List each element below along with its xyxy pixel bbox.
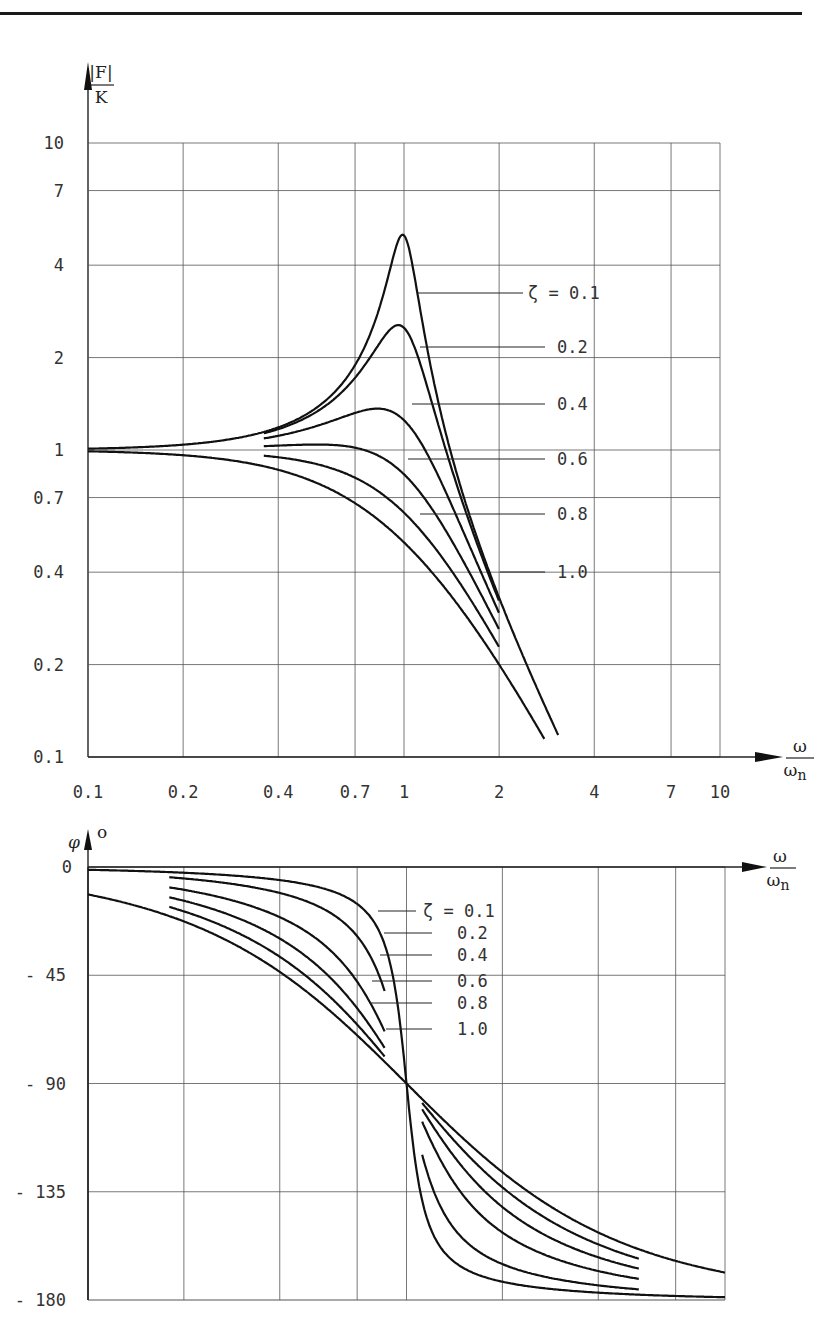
amp-y-tick-label: 7 [54,181,64,201]
amp-x-tick-label: 4 [589,782,599,802]
phase-legend-label: 0.8 [457,993,488,1013]
amp-y-tick-label: 4 [54,255,64,275]
amp-x-tick-label: 0.4 [263,782,294,802]
amp-x-tick-label: 0.2 [168,782,199,802]
amp-xlabel-denominator: ωn [784,760,807,783]
phase-legend-label: 0.6 [457,971,488,991]
amp-legend-label: ζ = 0.1 [528,283,600,303]
amplitude-grid [88,80,760,757]
phase-legend-label: 1.0 [457,1019,488,1039]
amplitude-legend: ζ = 0.10.20.40.60.81.0 [408,283,600,582]
amp-x-arrow-icon [755,752,783,762]
phase-y-tick-label: - 180 [15,1290,66,1310]
amp-y-tick-label: 10 [44,133,64,153]
phase-xlabel-denominator: ωn [767,870,790,893]
phase-ylabel-unit: o [97,822,107,842]
amp-curve-zeta-1 [88,451,544,739]
phase-legend-label: 0.2 [457,923,488,943]
phase-y-arrow-icon [84,829,92,850]
phase-y-tick-label: - 135 [15,1182,66,1202]
phase-x-arrow-icon [742,862,767,872]
amp-y-tick-label: 0.4 [33,562,64,582]
amp-curve-zeta-0.4 [264,409,499,613]
amplitude-tick-labels: 1074210.70.40.20.10.10.20.40.7124710 [33,133,730,802]
amp-legend-label: 0.8 [557,504,588,524]
amplitude-curves [88,235,558,739]
amp-x-tick-label: 0.7 [340,782,371,802]
amp-x-tick-label: 1 [399,782,409,802]
amp-y-tick-label: 1 [54,440,64,460]
amp-legend-label: 0.6 [557,449,588,469]
amp-x-tick-label: 7 [666,782,676,802]
phase-legend: ζ = 0.10.20.40.60.81.0 [370,901,495,1039]
amp-y-tick-label: 2 [54,348,64,368]
amp-curve-zeta-0.6 [264,445,499,629]
amp-legend-label: 0.2 [557,337,588,357]
amp-x-tick-label: 0.1 [73,782,104,802]
phase-curve-zeta-0.6 [169,897,639,1268]
phase-legend-label: ζ = 0.1 [423,901,495,921]
phase-y-tick-label: - 90 [25,1074,66,1094]
amp-ylabel-numerator: |F| [89,62,112,82]
phase-curve-zeta-0.8 [169,907,639,1259]
amp-y-tick-label: 0.1 [33,747,64,767]
phase-ylabel: φ [68,832,80,852]
phase-y-tick-label: - 45 [25,965,66,985]
bode-plot: ζ = 0.10.20.40.60.81.0 1074210.70.40.20.… [0,0,832,1333]
phase-tick-labels: 0- 45- 90- 135- 180 [15,857,72,1310]
amp-legend-label: 0.4 [557,394,588,414]
amp-curve-zeta-0.8 [264,456,499,647]
amp-y-tick-label: 0.2 [33,655,64,675]
amp-ylabel-denominator: K [95,87,108,107]
amp-x-tick-label: 2 [494,782,504,802]
amp-x-tick-label: 10 [710,782,730,802]
amp-curve-zeta-0.2 [264,325,499,600]
phase-xlabel-numerator: ω [773,846,787,866]
phase-y-tick-label: 0 [62,857,72,877]
amp-y-tick-label: 0.7 [33,488,64,508]
amp-xlabel-numerator: ω [793,736,807,756]
amp-legend-label: 1.0 [557,562,588,582]
phase-legend-label: 0.4 [457,945,488,965]
